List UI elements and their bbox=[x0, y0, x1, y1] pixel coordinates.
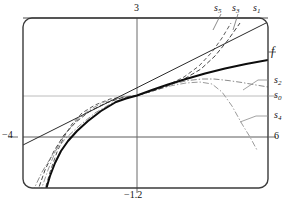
leader-s5 bbox=[213, 14, 221, 30]
plot-frame bbox=[23, 18, 268, 188]
plot-svg bbox=[0, 0, 285, 203]
axis-label-top: 3 bbox=[134, 3, 139, 13]
series-label-s3-sub: 3 bbox=[236, 7, 240, 15]
curve-s1 bbox=[23, 22, 268, 145]
axis-label-bottom: −1.2 bbox=[124, 190, 142, 200]
series-label-s5-sub: 5 bbox=[218, 7, 222, 15]
series-label-s5: s5 bbox=[214, 3, 221, 15]
plot-figure: 3 −1.2 −4 6 f s5 s3 s1 s2 s0 s4 bbox=[0, 0, 285, 203]
series-label-s4: s4 bbox=[274, 110, 281, 122]
leader-s3 bbox=[233, 14, 238, 30]
axis-label-right: 6 bbox=[274, 131, 279, 141]
series-label-s4-sub: 4 bbox=[278, 114, 282, 122]
leader-s4 bbox=[240, 116, 268, 122]
series-label-s2-sub: 2 bbox=[278, 79, 282, 87]
series-label-s2: s2 bbox=[274, 75, 281, 87]
curve-s3 bbox=[37, 23, 240, 193]
axis-label-left: −4 bbox=[2, 130, 13, 140]
series-label-s1-sub: 1 bbox=[257, 7, 261, 15]
series-label-s0-sub: 0 bbox=[278, 94, 282, 102]
series-label-s3: s3 bbox=[232, 3, 239, 15]
series-label-s0: s0 bbox=[274, 90, 281, 102]
series-label-f: f bbox=[271, 45, 274, 57]
series-label-s1: s1 bbox=[253, 3, 260, 15]
